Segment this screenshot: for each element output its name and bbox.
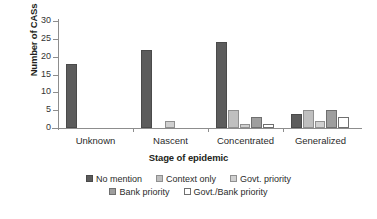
bar (303, 110, 314, 128)
x-axis-title: Stage of epidemic (0, 152, 377, 163)
legend-swatch-icon (109, 188, 116, 195)
legend-item[interactable]: Govt. priority (230, 174, 291, 184)
x-category-label: Concentrated (208, 135, 283, 147)
y-tick-label: 20 (29, 52, 51, 61)
bar (228, 110, 239, 128)
bar (165, 121, 176, 128)
bar (263, 124, 274, 128)
y-tick-label: 15 (29, 70, 51, 79)
legend-swatch-icon (156, 175, 163, 182)
legend-label: Govt. priority (240, 174, 291, 184)
x-category-label: Nascent (133, 135, 208, 147)
bar (338, 117, 349, 128)
y-tick-label: 25 (29, 34, 51, 43)
legend-item[interactable]: No mention (86, 174, 142, 184)
bar (66, 64, 77, 128)
legend-row-primary: No mentionContext onlyGovt. priority (0, 172, 377, 185)
x-group-separator (133, 128, 134, 132)
legend-row-secondary: Bank priorityGovt./Bank priority (0, 185, 377, 198)
y-tick-label: 10 (29, 87, 51, 96)
bar (251, 117, 262, 128)
x-category-label: Generalized (283, 135, 358, 147)
x-axis-line (52, 128, 362, 129)
x-group-separator (283, 128, 284, 132)
bar (216, 42, 227, 128)
x-group-separator (208, 128, 209, 132)
y-tick-label: 30 (29, 16, 51, 25)
legend-swatch-icon (86, 175, 93, 182)
legend-item[interactable]: Context only (156, 174, 216, 184)
bar (141, 50, 152, 128)
bar (240, 124, 251, 128)
bar-chart: Number of CASs 051015202530 UnknownNasce… (0, 0, 377, 219)
x-category-label: Unknown (58, 135, 133, 147)
legend-item[interactable]: Govt./Bank priority (184, 187, 268, 197)
legend-item[interactable]: Bank priority (109, 187, 169, 197)
legend-label: Bank priority (119, 187, 169, 197)
y-tick (53, 128, 58, 129)
bar (315, 121, 326, 128)
legend-swatch-icon (184, 188, 191, 195)
chart-legend: No mentionContext onlyGovt. priority Ban… (0, 172, 377, 198)
bar (291, 114, 302, 128)
bar (326, 110, 337, 128)
legend-label: No mention (96, 174, 142, 184)
y-tick-label: 5 (29, 105, 51, 114)
legend-label: Context only (166, 174, 216, 184)
y-tick-label: 0 (29, 123, 51, 132)
legend-swatch-icon (230, 175, 237, 182)
legend-label: Govt./Bank priority (194, 187, 268, 197)
plot-area (58, 21, 358, 128)
